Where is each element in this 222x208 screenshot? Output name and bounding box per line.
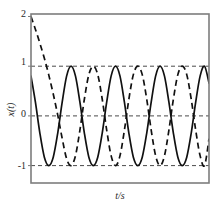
chart-figure: 2 1 0 -1 x(t) t/s xyxy=(0,0,222,208)
y-axis-title: x(t) xyxy=(5,88,16,132)
plot-canvas xyxy=(0,0,222,208)
x-axis-title: t/s xyxy=(31,190,209,201)
y-tick-label-2: 2 xyxy=(10,9,26,19)
y-tick-label-1: 1 xyxy=(10,57,26,67)
y-tick-label-minus-1: -1 xyxy=(8,161,26,171)
